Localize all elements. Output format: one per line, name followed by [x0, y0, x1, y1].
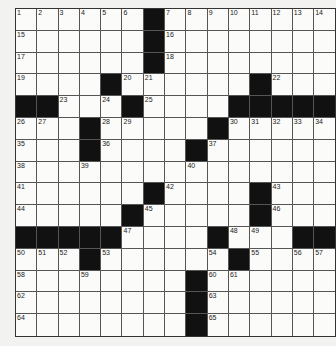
grid-cell[interactable] — [37, 183, 58, 205]
grid-cell[interactable]: 45 — [144, 205, 165, 227]
grid-cell[interactable] — [101, 183, 122, 205]
grid-cell[interactable]: 51 — [37, 249, 58, 271]
grid-cell[interactable]: 26 — [16, 118, 37, 140]
grid-cell[interactable] — [272, 140, 293, 162]
grid-cell[interactable]: 23 — [59, 96, 80, 118]
grid-cell[interactable]: 41 — [16, 183, 37, 205]
grid-cell[interactable]: 8 — [186, 9, 207, 31]
grid-cell[interactable] — [186, 74, 207, 96]
grid-cell[interactable]: 44 — [16, 205, 37, 227]
grid-cell[interactable]: 22 — [272, 74, 293, 96]
grid-cell[interactable]: 25 — [144, 96, 165, 118]
grid-cell[interactable] — [37, 74, 58, 96]
grid-cell[interactable]: 43 — [272, 183, 293, 205]
grid-cell[interactable]: 31 — [250, 118, 271, 140]
grid-cell[interactable] — [229, 205, 250, 227]
grid-cell[interactable] — [229, 162, 250, 184]
grid-cell[interactable] — [186, 31, 207, 53]
grid-cell[interactable] — [101, 314, 122, 336]
grid-cell[interactable] — [250, 162, 271, 184]
grid-cell[interactable] — [250, 31, 271, 53]
grid-cell[interactable]: 16 — [165, 31, 186, 53]
grid-cell[interactable]: 15 — [16, 31, 37, 53]
grid-cell[interactable] — [37, 292, 58, 314]
grid-cell[interactable] — [186, 227, 207, 249]
grid-cell[interactable] — [314, 205, 335, 227]
grid-cell[interactable] — [293, 314, 314, 336]
grid-cell[interactable] — [122, 314, 143, 336]
grid-cell[interactable] — [165, 74, 186, 96]
grid-cell[interactable]: 9 — [208, 9, 229, 31]
grid-cell[interactable]: 6 — [122, 9, 143, 31]
grid-cell[interactable] — [144, 140, 165, 162]
grid-cell[interactable] — [80, 183, 101, 205]
grid-cell[interactable] — [165, 314, 186, 336]
grid-cell[interactable] — [250, 53, 271, 75]
grid-cell[interactable] — [314, 53, 335, 75]
grid-cell[interactable]: 27 — [37, 118, 58, 140]
grid-cell[interactable] — [272, 53, 293, 75]
grid-cell[interactable] — [80, 53, 101, 75]
grid-cell[interactable] — [314, 292, 335, 314]
grid-cell[interactable] — [165, 227, 186, 249]
grid-cell[interactable] — [59, 314, 80, 336]
grid-cell[interactable] — [229, 292, 250, 314]
grid-cell[interactable] — [122, 53, 143, 75]
grid-cell[interactable] — [208, 74, 229, 96]
grid-cell[interactable] — [59, 118, 80, 140]
grid-cell[interactable] — [59, 292, 80, 314]
grid-cell[interactable] — [314, 31, 335, 53]
grid-cell[interactable]: 33 — [293, 118, 314, 140]
grid-cell[interactable] — [144, 292, 165, 314]
grid-cell[interactable]: 1 — [16, 9, 37, 31]
grid-cell[interactable] — [59, 74, 80, 96]
grid-cell[interactable] — [101, 292, 122, 314]
grid-cell[interactable] — [314, 314, 335, 336]
grid-cell[interactable] — [229, 183, 250, 205]
grid-cell[interactable] — [250, 314, 271, 336]
grid-cell[interactable] — [208, 183, 229, 205]
grid-cell[interactable]: 61 — [229, 271, 250, 293]
grid-cell[interactable] — [293, 183, 314, 205]
grid-cell[interactable]: 24 — [101, 96, 122, 118]
grid-cell[interactable] — [293, 292, 314, 314]
grid-cell[interactable]: 59 — [80, 271, 101, 293]
grid-cell[interactable] — [122, 31, 143, 53]
grid-cell[interactable] — [272, 271, 293, 293]
grid-cell[interactable]: 7 — [165, 9, 186, 31]
grid-cell[interactable]: 47 — [122, 227, 143, 249]
grid-cell[interactable] — [293, 140, 314, 162]
grid-cell[interactable]: 11 — [250, 9, 271, 31]
grid-cell[interactable] — [250, 271, 271, 293]
grid-cell[interactable]: 37 — [208, 140, 229, 162]
grid-cell[interactable] — [144, 249, 165, 271]
grid-cell[interactable] — [80, 205, 101, 227]
grid-cell[interactable] — [122, 292, 143, 314]
grid-cell[interactable] — [186, 249, 207, 271]
grid-cell[interactable] — [186, 96, 207, 118]
grid-cell[interactable] — [293, 162, 314, 184]
grid-cell[interactable] — [101, 53, 122, 75]
grid-cell[interactable]: 65 — [208, 314, 229, 336]
grid-cell[interactable]: 20 — [122, 74, 143, 96]
grid-cell[interactable] — [37, 140, 58, 162]
grid-cell[interactable] — [80, 292, 101, 314]
grid-cell[interactable] — [314, 74, 335, 96]
grid-cell[interactable]: 50 — [16, 249, 37, 271]
grid-cell[interactable] — [165, 271, 186, 293]
grid-cell[interactable] — [293, 74, 314, 96]
grid-cell[interactable] — [229, 31, 250, 53]
grid-cell[interactable] — [122, 249, 143, 271]
grid-cell[interactable]: 48 — [229, 227, 250, 249]
grid-cell[interactable]: 14 — [314, 9, 335, 31]
grid-cell[interactable] — [272, 162, 293, 184]
grid-cell[interactable] — [272, 31, 293, 53]
grid-cell[interactable]: 32 — [272, 118, 293, 140]
grid-cell[interactable]: 21 — [144, 74, 165, 96]
grid-cell[interactable] — [208, 162, 229, 184]
grid-cell[interactable]: 30 — [229, 118, 250, 140]
grid-cell[interactable] — [59, 53, 80, 75]
grid-cell[interactable] — [272, 292, 293, 314]
grid-cell[interactable] — [59, 140, 80, 162]
grid-cell[interactable] — [229, 140, 250, 162]
